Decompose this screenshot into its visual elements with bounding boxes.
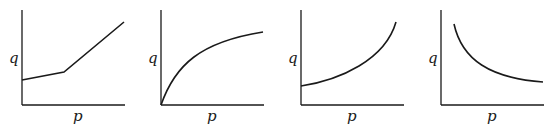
- y-axis-label: q: [148, 49, 158, 67]
- figure: q p q p q p q p: [0, 0, 555, 132]
- concave-curve: [161, 32, 263, 105]
- x-axis-label: p: [73, 107, 83, 125]
- x-axis-label: p: [347, 107, 357, 125]
- panel-1: q p: [9, 10, 125, 125]
- x-axis-label: p: [487, 107, 497, 125]
- convex-decreasing-curve: [454, 24, 543, 82]
- y-axis-label: q: [288, 49, 298, 67]
- kinked-line: [22, 22, 124, 80]
- panel-4: q p: [428, 10, 544, 125]
- panel-3: q p: [288, 10, 404, 125]
- y-axis-label: q: [428, 49, 438, 67]
- y-axis-label: q: [9, 49, 19, 67]
- x-axis-label: p: [207, 107, 217, 125]
- convex-increasing-curve: [301, 22, 396, 86]
- panel-2: q p: [148, 10, 264, 125]
